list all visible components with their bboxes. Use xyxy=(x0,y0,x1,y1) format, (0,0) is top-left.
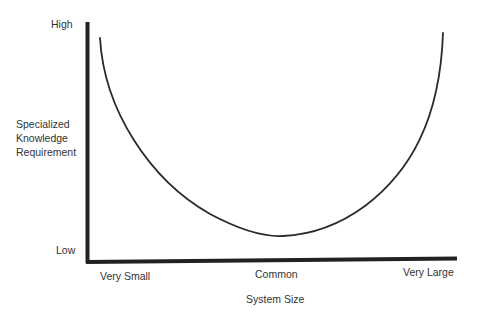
y-axis-label-line-3: Requirement xyxy=(16,145,76,159)
x-tick-common: Common xyxy=(255,268,298,280)
x-tick-very-large: Very Large xyxy=(403,266,454,278)
y-axis-label-line-2: Knowledge xyxy=(16,131,76,145)
knowledge-curve xyxy=(100,33,443,236)
y-tick-high: High xyxy=(51,18,73,30)
x-tick-very-small: Very Small xyxy=(100,270,150,282)
y-tick-low: Low xyxy=(56,244,75,256)
y-axis-label: Specialized Knowledge Requirement xyxy=(16,117,76,159)
x-axis-label: System Size xyxy=(246,293,304,305)
x-axis xyxy=(86,259,457,263)
y-axis-label-line-1: Specialized xyxy=(16,117,76,131)
